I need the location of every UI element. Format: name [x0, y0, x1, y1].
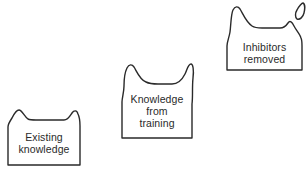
label-line: knowledge: [8, 143, 80, 155]
label-line: removed: [227, 53, 302, 65]
stage-label-knowledge-from-training: Knowledge from training: [122, 93, 192, 129]
label-line: Knowledge: [122, 93, 192, 105]
label-line: Existing: [8, 131, 80, 143]
label-line: training: [122, 117, 192, 129]
stage-label-inhibitors-removed: Inhibitors removed: [227, 41, 302, 65]
detached-fragment-shape: [296, 3, 305, 19]
stage-label-existing-knowledge: Existing knowledge: [8, 131, 80, 155]
label-line: from: [122, 105, 192, 117]
label-line: Inhibitors: [227, 41, 302, 53]
